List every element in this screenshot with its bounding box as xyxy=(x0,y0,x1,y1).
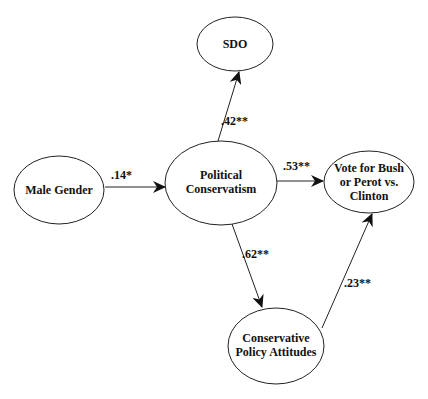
node-label-sdo: SDO xyxy=(223,37,248,51)
edge-political-conservatism-to-sdo: .42** xyxy=(218,72,248,141)
node-label-conservative: Conservative xyxy=(242,331,310,345)
edge-label-policy-to-vote: .23** xyxy=(344,276,371,290)
node-vote: Vote for Bush or Perot vs. Clinton xyxy=(324,151,414,213)
node-label-conservatism: Conservatism xyxy=(186,182,257,196)
node-label-vote-line1: Vote for Bush xyxy=(334,161,404,175)
node-label-political: Political xyxy=(200,168,243,182)
node-label-policy-attitudes: Policy Attitudes xyxy=(236,345,317,359)
edge-policy-attitudes-to-vote: .23** xyxy=(322,214,372,328)
path-diagram: .14* .42** .53** .62** .23** SDO Male Ge… xyxy=(0,0,428,399)
node-policy-attitudes: Conservative Policy Attitudes xyxy=(228,308,324,384)
edge-political-conservatism-to-policy-attitudes: .62** xyxy=(232,224,269,307)
node-label-vote-line3: Clinton xyxy=(350,189,389,203)
edge-label-sdo: .42** xyxy=(221,114,248,128)
edge-label-policy-attitudes: .62** xyxy=(242,247,269,261)
edge-male-gender-to-political-conservatism: .14* xyxy=(105,168,165,187)
edge-label-male-gender: .14* xyxy=(111,168,132,182)
edge-label-vote: .53** xyxy=(283,159,310,173)
node-label-male-gender: Male Gender xyxy=(25,183,93,197)
edge-political-conservatism-to-vote: .53** xyxy=(277,159,323,181)
node-label-vote-line2: or Perot vs. xyxy=(340,175,399,189)
node-male-gender: Male Gender xyxy=(14,156,104,224)
node-sdo: SDO xyxy=(197,17,273,71)
node-political-conservatism: Political Conservatism xyxy=(165,141,277,225)
